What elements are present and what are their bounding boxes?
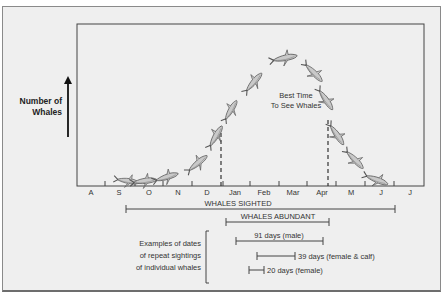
whale-season-diagram: Number of Whales A S O N D Jan Feb Mar A…: [0, 0, 446, 300]
month-label: D: [204, 188, 210, 197]
examples-label-line2: of repeat sightings: [140, 251, 202, 260]
examples-label-line1: Examples of dates: [139, 239, 201, 248]
sighting-label-91-days: 91 days (male): [254, 231, 304, 240]
whale-icon: [322, 118, 349, 148]
whale-icon: [129, 172, 158, 190]
best-time-label-line2: To See Whales: [271, 101, 322, 110]
whale-icon: [298, 57, 327, 86]
month-label: A: [88, 188, 93, 197]
whale-icon: [202, 122, 228, 153]
whales-abundant-label: WHALES ABUNDANT: [241, 212, 316, 221]
y-axis-label-line1: Number of: [20, 96, 63, 106]
whale-icon: [182, 150, 212, 178]
x-axis-month-labels: A S O N D Jan Feb Mar Apr M J J: [88, 188, 412, 197]
month-label: Apr: [316, 188, 328, 197]
sighting-label-39-days: 39 days (female & calf): [298, 252, 375, 261]
whale-icon: [239, 68, 267, 98]
month-label: M: [348, 188, 354, 197]
whale-icon: [218, 97, 243, 126]
examples-label-line3: of individual whales: [136, 263, 201, 272]
month-label: J: [408, 188, 412, 197]
range-whales-sighted: WHALES SIGHTED: [126, 199, 395, 213]
sighting-range-91-days: 91 days (male): [236, 231, 323, 245]
range-whales-abundant: WHALES ABUNDANT: [226, 212, 329, 226]
whale-icon: [339, 144, 368, 173]
month-label: S: [116, 188, 121, 197]
sighting-range-20-days: 20 days (female): [249, 266, 323, 275]
y-axis-label-line2: Whales: [32, 107, 62, 117]
month-label: O: [146, 188, 152, 197]
whale-icon: [150, 167, 180, 189]
y-axis-arrow-icon: [64, 76, 72, 137]
month-label: N: [175, 188, 180, 197]
month-label: Mar: [287, 188, 300, 197]
whale-icons-curve: [113, 48, 391, 191]
month-label: J: [379, 188, 383, 197]
sighting-range-39-days: 39 days (female & calf): [257, 252, 375, 261]
examples-bracket: [206, 231, 209, 283]
plot-box: [77, 24, 424, 186]
month-label: Feb: [258, 188, 271, 197]
whale-icon: [268, 48, 299, 69]
sighting-label-20-days: 20 days (female): [267, 266, 323, 275]
best-time-label-line1: Best Time: [279, 91, 312, 100]
whales-sighted-label: WHALES SIGHTED: [204, 199, 272, 208]
whale-icon: [360, 168, 390, 191]
month-label: Jan: [229, 188, 241, 197]
